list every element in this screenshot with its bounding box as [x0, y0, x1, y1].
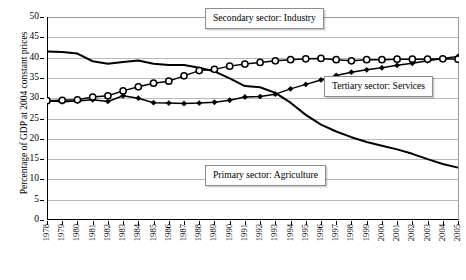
data-point-marker [333, 57, 339, 63]
data-point-marker [364, 57, 370, 63]
series-primary-sector [47, 52, 458, 168]
x-tick-label: 1994 [286, 224, 295, 241]
data-point-marker [120, 88, 126, 94]
data-point-marker [303, 81, 309, 87]
data-point-marker [272, 58, 278, 64]
x-tick-label: 1993 [270, 224, 279, 241]
gdp-sector-share-chart: Percentage of GDP at 2004 constant price… [0, 0, 466, 280]
x-tick-mark [138, 221, 139, 225]
data-point-marker [288, 86, 294, 92]
x-tick-mark [108, 221, 109, 225]
annotation-tertiary-sector: Tertiary sector: Services [324, 76, 433, 97]
x-tick-label: 1986 [164, 224, 173, 241]
data-point-marker [379, 65, 385, 71]
data-point-marker [227, 97, 233, 103]
data-point-marker [349, 69, 355, 75]
data-point-marker [166, 100, 172, 106]
x-tick-mark [169, 221, 170, 225]
x-tick-label: 1984 [133, 224, 142, 241]
x-tick-mark [397, 221, 398, 225]
data-point-marker [59, 97, 65, 103]
x-tick-mark [412, 221, 413, 225]
data-point-marker [181, 73, 187, 79]
data-point-marker [424, 56, 430, 62]
data-point-marker [181, 101, 187, 107]
y-tick-label: 30 [30, 93, 40, 103]
y-tick-mark [40, 159, 44, 160]
y-tick-mark [40, 98, 44, 99]
data-point-marker [409, 56, 415, 62]
x-tick-mark [123, 221, 124, 225]
x-tick-mark [443, 221, 444, 225]
x-tick-mark [306, 221, 307, 225]
y-tick-mark [40, 17, 44, 18]
x-tick-label: 2004 [438, 224, 447, 241]
x-tick-label: 2005 [453, 224, 462, 241]
data-point-marker [394, 62, 400, 68]
data-point-marker [227, 63, 233, 69]
series-layer [47, 17, 459, 220]
y-tick-label: 45 [30, 33, 40, 43]
x-tick-label: 2003 [423, 224, 432, 241]
data-point-marker [47, 98, 50, 104]
y-tick-label: 10 [30, 175, 40, 185]
data-point-marker [135, 95, 141, 101]
x-tick-mark [291, 221, 292, 225]
data-point-marker [379, 57, 385, 63]
x-tick-label: 1995 [301, 224, 310, 241]
x-tick-mark [260, 221, 261, 225]
x-tick-label: 1981 [88, 224, 97, 241]
x-tick-mark [367, 221, 368, 225]
data-point-marker [287, 57, 293, 63]
x-tick-label: 1987 [179, 224, 188, 241]
data-point-marker [105, 93, 111, 99]
x-tick-mark [336, 221, 337, 225]
data-point-marker [135, 84, 141, 90]
x-tick-mark [382, 221, 383, 225]
y-tick-mark [40, 200, 44, 201]
x-tick-mark [245, 221, 246, 225]
x-tick-label: 1988 [194, 224, 203, 241]
data-point-marker [90, 94, 96, 100]
y-tick-mark [40, 139, 44, 140]
data-point-marker [242, 94, 248, 100]
y-tick-label: 50 [30, 12, 40, 22]
y-tick-mark [40, 220, 44, 221]
x-tick-label: 1979 [57, 224, 66, 241]
data-point-marker [394, 56, 400, 62]
data-point-marker [318, 55, 324, 61]
x-tick-label: 1996 [316, 224, 325, 241]
data-point-marker [74, 97, 80, 103]
x-tick-mark [458, 221, 459, 225]
y-tick-label: 20 [30, 134, 40, 144]
data-point-marker [242, 61, 248, 67]
x-tick-mark [62, 221, 63, 225]
annotation-secondary-sector: Secondary sector: Industry [205, 8, 324, 29]
y-tick-label: 15 [30, 154, 40, 164]
y-axis-tick-labels: 05101520253035404550 [20, 17, 44, 220]
x-tick-label: 1991 [240, 224, 249, 241]
data-point-marker [150, 80, 156, 86]
x-tick-mark [351, 221, 352, 225]
x-tick-mark [230, 221, 231, 225]
x-tick-label: 1978 [42, 224, 51, 241]
y-tick-mark [40, 78, 44, 79]
y-tick-label: 40 [30, 53, 40, 63]
data-point-marker [364, 67, 370, 73]
annotation-primary-sector: Primary sector: Agriculture [205, 165, 326, 186]
data-point-marker [212, 99, 218, 105]
series-line [47, 52, 458, 168]
x-tick-label: 2002 [407, 224, 416, 241]
x-tick-label: 1983 [118, 224, 127, 241]
x-tick-mark [199, 221, 200, 225]
x-tick-label: 1999 [362, 224, 371, 241]
x-tick-mark [93, 221, 94, 225]
y-tick-mark [40, 58, 44, 59]
x-tick-label: 2000 [377, 224, 386, 241]
x-tick-mark [47, 221, 48, 225]
x-tick-label: 1980 [72, 224, 81, 241]
x-tick-mark [154, 221, 155, 225]
y-tick-label: 5 [34, 195, 39, 205]
x-tick-label: 1985 [149, 224, 158, 241]
y-tick-label: 35 [30, 73, 40, 83]
